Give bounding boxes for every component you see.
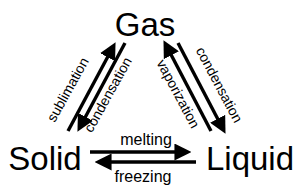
process-label-sublimation: sublimation <box>43 55 91 125</box>
diagram-canvas: Gas Solid Liquid sublimation condensatio… <box>0 0 299 189</box>
process-label-melting: melting <box>120 131 172 148</box>
state-label-liquid: Liquid <box>206 140 294 177</box>
process-label-freezing: freezing <box>115 168 172 185</box>
phase-change-diagram: Gas Solid Liquid sublimation condensatio… <box>0 0 299 189</box>
state-label-solid: Solid <box>8 140 81 177</box>
state-label-gas: Gas <box>115 6 176 43</box>
